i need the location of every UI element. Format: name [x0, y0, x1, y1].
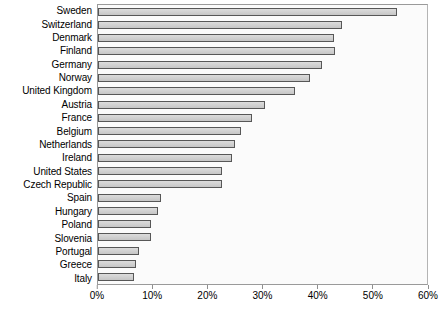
category-label: Slovenia — [0, 231, 95, 244]
bar-slot — [98, 271, 427, 284]
x-axis-tick: 30% — [252, 285, 272, 302]
bar — [98, 8, 397, 16]
category-label: Portugal — [0, 245, 95, 258]
x-axis-tick: 20% — [197, 285, 217, 302]
tick-label: 60% — [418, 290, 438, 302]
category-label: United Kingdom — [0, 84, 95, 97]
bar — [98, 260, 136, 268]
tick-label: 30% — [252, 290, 272, 302]
category-label: Ireland — [0, 151, 95, 164]
bar — [98, 273, 134, 281]
tick-mark — [96, 285, 97, 289]
bar-slot — [98, 231, 427, 244]
bar — [98, 101, 265, 109]
tick-mark — [152, 285, 153, 289]
tick-label: 20% — [197, 290, 217, 302]
category-label: Sweden — [0, 4, 95, 17]
value-axis: 0%10%20%30%40%50%60% — [97, 285, 428, 313]
bar-slot — [98, 178, 427, 191]
bar-slot — [98, 111, 427, 124]
bar — [98, 140, 235, 148]
bar — [98, 154, 232, 162]
tick-mark — [427, 285, 428, 289]
bar-slot — [98, 138, 427, 151]
tick-mark — [372, 285, 373, 289]
bar-slot — [98, 32, 427, 45]
category-label: Hungary — [0, 205, 95, 218]
bar-slot — [98, 164, 427, 177]
bar-slot — [98, 257, 427, 270]
x-axis-tick: 40% — [308, 285, 328, 302]
bar — [98, 61, 322, 69]
bar — [98, 87, 295, 95]
category-label: Denmark — [0, 31, 95, 44]
tick-label: 40% — [308, 290, 328, 302]
bar-chart: SwedenSwitzerlandDenmarkFinlandGermanyNo… — [0, 0, 441, 316]
bar-slot — [98, 85, 427, 98]
bar — [98, 247, 139, 255]
bar-slot — [98, 71, 427, 84]
bar — [98, 167, 222, 175]
category-label: United States — [0, 165, 95, 178]
bars-layer — [98, 5, 427, 284]
bar — [98, 127, 241, 135]
bar-slot — [98, 218, 427, 231]
bar — [98, 207, 158, 215]
x-axis-tick: 60% — [418, 285, 438, 302]
category-label: Czech Republic — [0, 178, 95, 191]
tick-label: 50% — [363, 290, 383, 302]
bar — [98, 47, 335, 55]
tick-label: 10% — [142, 290, 162, 302]
bar-slot — [98, 125, 427, 138]
tick-label: 0% — [90, 290, 104, 302]
x-axis-tick: 10% — [142, 285, 162, 302]
plot-area — [97, 4, 428, 285]
category-label: Germany — [0, 58, 95, 71]
x-axis-tick: 0% — [90, 285, 104, 302]
category-label: Netherlands — [0, 138, 95, 151]
x-axis-tick: 50% — [363, 285, 383, 302]
category-label: Austria — [0, 98, 95, 111]
bar — [98, 74, 310, 82]
bar-slot — [98, 244, 427, 257]
category-axis: SwedenSwitzerlandDenmarkFinlandGermanyNo… — [0, 4, 95, 285]
bar-slot — [98, 5, 427, 18]
category-label: Finland — [0, 44, 95, 57]
bar — [98, 233, 151, 241]
category-label: Italy — [0, 272, 95, 285]
bar-slot — [98, 191, 427, 204]
bar — [98, 180, 222, 188]
bar — [98, 194, 161, 202]
bar-slot — [98, 98, 427, 111]
category-label: Spain — [0, 191, 95, 204]
bar-slot — [98, 204, 427, 217]
category-label: Norway — [0, 71, 95, 84]
category-label: France — [0, 111, 95, 124]
bar-slot — [98, 58, 427, 71]
tick-mark — [262, 285, 263, 289]
bar — [98, 21, 342, 29]
category-label: Belgium — [0, 124, 95, 137]
bar — [98, 220, 151, 228]
bar — [98, 34, 334, 42]
tick-mark — [207, 285, 208, 289]
bar-slot — [98, 18, 427, 31]
bar — [98, 114, 252, 122]
category-label: Switzerland — [0, 17, 95, 30]
bar-slot — [98, 45, 427, 58]
category-label: Greece — [0, 258, 95, 271]
category-label: Poland — [0, 218, 95, 231]
tick-mark — [317, 285, 318, 289]
bar-slot — [98, 151, 427, 164]
